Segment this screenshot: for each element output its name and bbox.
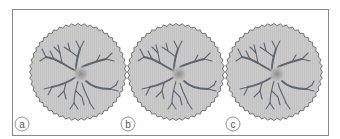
panel-c	[225, 23, 322, 120]
label-c: c	[226, 117, 240, 131]
nucleus	[170, 65, 188, 83]
panel-a	[29, 23, 126, 120]
label-text: b	[125, 119, 131, 130]
label-b: b	[121, 117, 135, 131]
panel-b	[127, 23, 224, 120]
label-a: a	[15, 117, 29, 131]
neuron-diagram: a b c	[0, 0, 340, 139]
label-text: a	[19, 119, 25, 130]
nucleus	[268, 65, 286, 83]
label-text: c	[231, 119, 236, 130]
nucleus	[72, 65, 90, 83]
